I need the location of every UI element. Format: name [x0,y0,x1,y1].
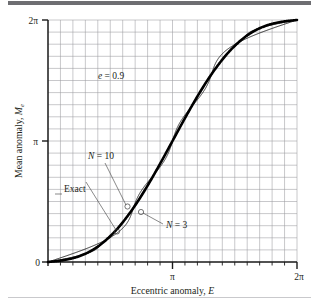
annotation-n10: N = 10 [87,151,114,161]
top-rule-divider [8,1,311,5]
y-tick-label-pi: π [33,137,38,147]
y-tick-label-0: 0 [35,258,40,268]
x-tick-label-2pi: 2π [294,272,304,282]
annotation-leaders [55,163,163,234]
figure-container: 2π π 0 π 2π Eccentric anomaly, E Mean an… [0,0,319,305]
annotation-eccentricity: e = 0.9 [98,71,124,81]
x-tick-label-pi: π [170,272,175,282]
x-axis-title: Eccentric anomaly, E [131,285,214,296]
y-axis-title: Mean anomaly, Me [13,104,25,178]
annotation-n3: N = 3 [165,220,187,230]
y-tick-label-2pi: 2π [28,16,38,26]
chart-svg: 2π π 0 π 2π Eccentric anomaly, E Mean an… [0,0,319,305]
annotation-exact: Exact [64,184,86,194]
bottom-rule-divider [8,297,311,298]
